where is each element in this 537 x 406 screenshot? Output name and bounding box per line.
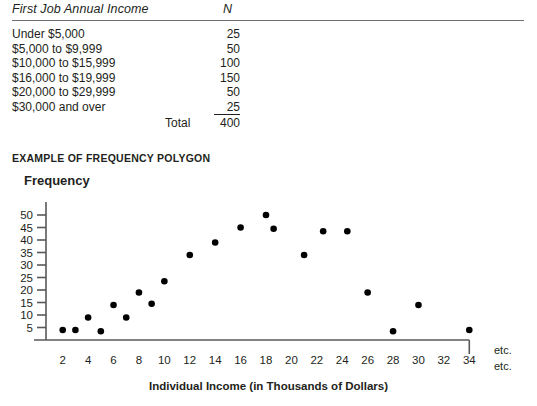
table-row: $10,000 to $15,999 100 [0, 56, 537, 71]
table-header-rule [12, 20, 524, 21]
x-tick-label: 30 [412, 354, 425, 366]
data-point [415, 302, 422, 309]
table-row: Under $5,000 25 [0, 27, 537, 42]
y-tick-label: 30 [20, 259, 33, 271]
x-tick-label: 20 [285, 354, 298, 366]
row-value: 150 [196, 71, 240, 85]
table-row: $20,000 to $29,999 50 [0, 85, 537, 100]
table-header-row: First Job Annual Income N [0, 0, 537, 19]
x-tick-label: 22 [310, 354, 323, 366]
x-tick-label: 18 [260, 354, 273, 366]
x-axis-tick-labels: 246810121416182022242628303234 [60, 354, 477, 366]
row-value: 50 [196, 85, 240, 99]
row-label: $5,000 to $9,999 [12, 42, 102, 56]
y-axis-tick-labels: 5101520253035404550 [20, 209, 33, 334]
data-point [161, 278, 168, 285]
plot-area: 5101520253035404550 24681012141618202224… [0, 152, 537, 406]
x-tick-label: 34 [463, 354, 476, 366]
table-row: $30,000 and over 25 [0, 100, 537, 115]
y-tick-label: 5 [27, 322, 33, 334]
x-tick-label: 4 [85, 354, 92, 366]
data-point [85, 314, 92, 321]
x-axis-title: Individual Income (in Thousands of Dolla… [0, 380, 537, 392]
row-value: 50 [196, 42, 240, 56]
frequency-polygon-chart: EXAMPLE OF FREQUENCY POLYGON Frequency 5… [0, 152, 537, 406]
frequency-table: First Job Annual Income N Under $5,000 2… [0, 0, 537, 19]
x-tick-label: 12 [183, 354, 196, 366]
y-tick-label: 25 [20, 272, 33, 284]
data-point [72, 327, 79, 334]
row-label: $16,000 to $19,999 [12, 71, 115, 85]
data-point [110, 302, 117, 309]
etc-label-upper: etc. [494, 344, 512, 356]
data-point [212, 239, 219, 246]
table-row: $16,000 to $19,999 150 [0, 71, 537, 86]
data-point [186, 252, 193, 259]
row-value: 25 [196, 27, 240, 41]
data-point [301, 252, 308, 259]
y-tick-label: 35 [20, 247, 33, 259]
table-row: $5,000 to $9,999 50 [0, 42, 537, 57]
row-value: 100 [196, 56, 240, 70]
x-tick-label: 6 [110, 354, 116, 366]
data-point [344, 228, 351, 235]
data-point [136, 289, 143, 296]
table-total-row: Total 400 [0, 115, 537, 130]
y-tick-label: 10 [20, 309, 33, 321]
etc-label-lower: etc. [494, 360, 512, 372]
data-point [263, 212, 270, 219]
data-point [364, 289, 371, 296]
y-tick-label: 20 [20, 284, 33, 296]
scatter-plot-svg: 5101520253035404550 24681012141618202224… [0, 152, 537, 406]
row-label: $30,000 and over [12, 100, 105, 114]
row-label: $10,000 to $15,999 [12, 56, 115, 70]
data-point [237, 224, 244, 231]
x-tick-label: 2 [60, 354, 66, 366]
y-tick-label: 15 [20, 297, 33, 309]
x-tick-label: 16 [234, 354, 247, 366]
x-tick-label: 26 [361, 354, 374, 366]
data-point [270, 225, 277, 232]
row-value-underlined: 25 [214, 100, 240, 115]
data-point [390, 328, 397, 335]
total-value: 400 [196, 116, 240, 130]
x-tick-label: 8 [136, 354, 142, 366]
data-point [320, 228, 327, 235]
column-header-income: First Job Annual Income [12, 2, 149, 16]
y-tick-label: 40 [20, 234, 33, 246]
y-axis-ticks [37, 215, 46, 328]
data-point [466, 327, 473, 334]
row-label: Under $5,000 [12, 27, 85, 41]
row-label: $20,000 to $29,999 [12, 85, 115, 99]
x-tick-label: 28 [387, 354, 400, 366]
total-label: Total [165, 116, 190, 130]
data-point [98, 328, 105, 335]
x-tick-label: 14 [209, 354, 222, 366]
x-tick-label: 24 [336, 354, 349, 366]
data-points [59, 212, 472, 335]
table-body: Under $5,000 25 $5,000 to $9,999 50 $10,… [0, 27, 537, 130]
y-tick-label: 50 [20, 209, 33, 221]
data-point [123, 314, 130, 321]
data-point [148, 300, 155, 307]
data-point [59, 327, 66, 334]
x-tick-label: 32 [437, 354, 450, 366]
column-header-n: N [223, 2, 232, 16]
y-tick-label: 45 [20, 222, 33, 234]
x-tick-label: 10 [158, 354, 171, 366]
